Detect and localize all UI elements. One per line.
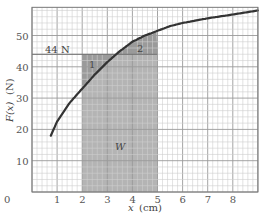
svg-text:F(x): F(x) (4, 102, 15, 123)
x-tick-label: 6 (180, 194, 186, 205)
y-tick-label: 20 (16, 124, 29, 135)
y-tick-labels: 1020304050 (16, 31, 29, 167)
region-2-label: 2 (137, 43, 143, 54)
region-1-label: 1 (89, 59, 95, 70)
y-tick-label: 50 (16, 31, 29, 42)
x-tick-label: 7 (205, 194, 211, 205)
svg-text:(N): (N) (4, 78, 15, 95)
y-tick-label: 10 (16, 156, 29, 167)
x-axis-title: x (cm) (128, 202, 162, 213)
x-tick-label: 0 (4, 194, 10, 205)
y-tick-label: 30 (16, 93, 29, 104)
x-tick-labels: 012345678 (4, 194, 236, 205)
x-tick-label: 8 (230, 194, 236, 205)
force-vs-displacement-chart: 012345678 1020304050 44 N 1 2 W x (cm) F… (0, 0, 263, 220)
x-tick-label: 1 (54, 194, 60, 205)
x-tick-label: 2 (79, 194, 85, 205)
reference-line-label: 44 N (45, 44, 70, 55)
x-tick-label: 3 (104, 194, 110, 205)
svg-text:(cm): (cm) (139, 202, 162, 213)
y-tick-label: 40 (16, 62, 29, 73)
work-label: W (115, 141, 126, 152)
svg-text:x: x (128, 202, 134, 213)
y-axis-title: F(x) (N) (4, 78, 15, 123)
work-shaded-region (82, 31, 157, 192)
